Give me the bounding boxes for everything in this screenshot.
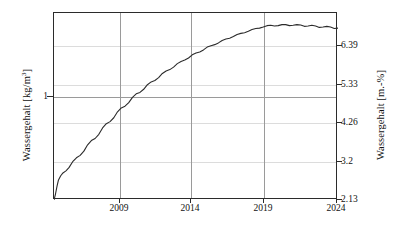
y-axis-right-tick-label: 3.2	[341, 156, 353, 166]
y-axis-left-tickmark	[47, 96, 53, 97]
y-axis-right-tickmark	[337, 45, 342, 46]
x-axis-tickmark	[119, 199, 120, 203]
y-axis-right-tickmark	[337, 161, 342, 162]
y-axis-right-tickmark	[337, 122, 342, 123]
x-axis-tickmark	[190, 199, 191, 203]
left-axis-title-tail: ]	[21, 68, 32, 72]
y-axis-right-tickmark	[337, 84, 342, 85]
series-line-wassergehalt	[54, 13, 338, 200]
x-axis-tick-label: 2014	[181, 203, 200, 213]
left-axis-title: Wassergehalt [kg/m3]	[20, 45, 33, 185]
left-axis-title-main: Wassergehalt [kg/m	[21, 76, 32, 161]
y-axis-right-tickmark	[337, 199, 342, 200]
y-axis-right-tick-label: 5.33	[341, 79, 358, 89]
y-axis-right-tick-label: 6.39	[341, 40, 358, 50]
x-axis-tick-label: 2019	[254, 203, 273, 213]
y-axis-right-tick-label: 4.26	[341, 117, 358, 127]
x-axis-tickmark	[336, 199, 337, 203]
x-axis-tick-label: 2009	[110, 203, 129, 213]
right-axis-title: Wassergehalt [m.-%]	[375, 35, 386, 195]
x-axis-tick-label: 2024	[327, 203, 346, 213]
plot-area	[53, 12, 337, 199]
left-axis-title-superscript: 3	[20, 72, 28, 76]
x-axis-tickmark	[263, 199, 264, 203]
chart-container: Wassergehalt [kg/m3] Wassergehalt [m.-%]…	[0, 0, 395, 229]
